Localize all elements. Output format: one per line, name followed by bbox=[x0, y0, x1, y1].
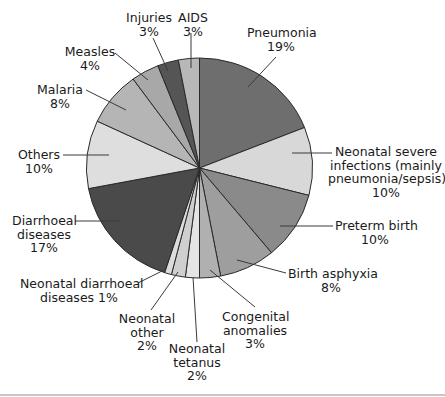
leader-congenital bbox=[210, 270, 255, 307]
label-congenital: Congenital anomalies 3% bbox=[222, 310, 288, 351]
label-neonatal-diarrhoeal: Neonatal diarrhoeal diseases 1% bbox=[20, 277, 138, 304]
label-birth-asphyxia: Birth asphyxia 8% bbox=[288, 267, 374, 294]
leader-malaria bbox=[86, 90, 126, 110]
label-injuries: Injuries 3% bbox=[123, 11, 175, 38]
leader-neonatal-tetanus bbox=[193, 277, 197, 342]
leader-measles bbox=[115, 53, 148, 80]
label-neonatal-other: Neonatal other 2% bbox=[118, 312, 176, 353]
label-aids: AIDS 3% bbox=[176, 11, 210, 38]
leader-neonatal-other bbox=[151, 272, 178, 310]
label-malaria: Malaria 8% bbox=[35, 83, 85, 110]
bottom-rule bbox=[0, 394, 445, 396]
leader-injuries bbox=[153, 38, 168, 71]
leader-birth-asphyxia bbox=[237, 260, 286, 273]
label-diarrhoeal: Diarrhoeal diseases 17% bbox=[12, 214, 76, 255]
label-measles: Measles 4% bbox=[64, 45, 116, 72]
label-others: Others 10% bbox=[17, 148, 61, 175]
leader-pneumonia bbox=[248, 57, 276, 87]
label-neonatal-tetanus: Neonatal tetanus 2% bbox=[168, 342, 226, 383]
label-neonatal-severe: Neonatal severe infections (mainly pneum… bbox=[328, 145, 444, 199]
label-preterm: Preterm birth 10% bbox=[335, 219, 415, 246]
label-pneumonia: Pneumonia 19% bbox=[247, 26, 315, 53]
